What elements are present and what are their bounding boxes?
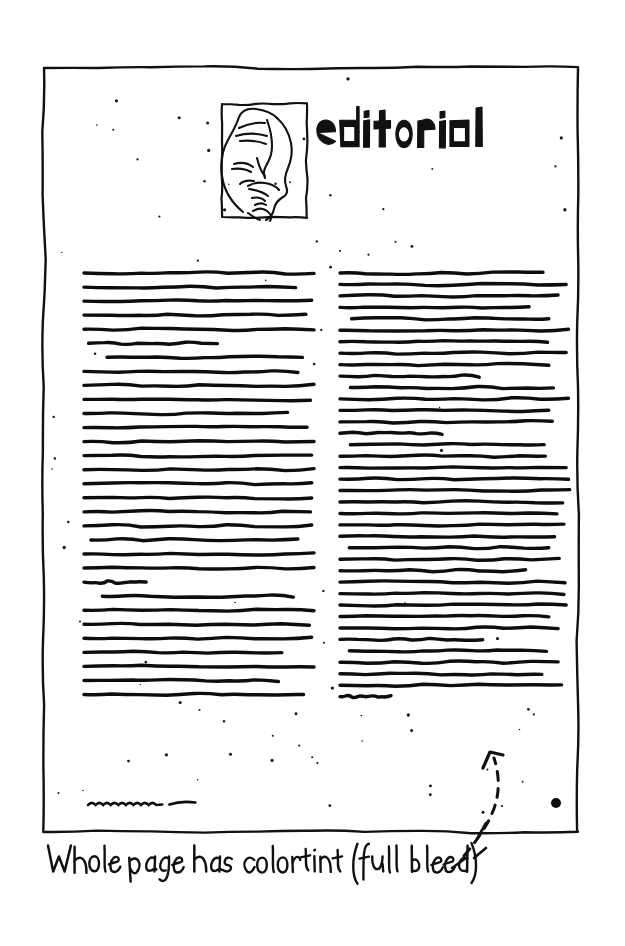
speckle-dot (271, 759, 274, 762)
speckle-dot (229, 753, 232, 756)
caption-stroke (273, 846, 274, 872)
greeked-text-line (340, 490, 570, 492)
speckle-dot (395, 241, 397, 243)
speckle-dot (410, 245, 413, 248)
speckle-dot (223, 208, 226, 211)
speckle-dot (481, 811, 484, 814)
speckle-dot (203, 180, 206, 183)
title-letter-glyph (439, 120, 445, 147)
speckle-dot (274, 182, 277, 185)
speckle-dot (563, 208, 566, 211)
speckle-dot (96, 124, 98, 126)
title-letter-glyph (476, 107, 483, 146)
speckle-dot (329, 266, 332, 269)
speckle-dot (61, 252, 62, 253)
speckle-dot (439, 407, 440, 408)
greeked-text-line (84, 637, 312, 639)
greeked-text-line (340, 363, 549, 365)
greeked-text-line (340, 455, 545, 457)
greeked-text-line (349, 547, 549, 549)
speckle-dot (57, 792, 59, 794)
page-layout-sketch: editorial Whole page has colortint (full… (0, 0, 625, 946)
greeked-text-line (349, 650, 546, 652)
speckle-dot (407, 713, 410, 716)
speckle-dot (197, 779, 199, 781)
speckle-dot (272, 735, 274, 737)
speckle-dot (316, 240, 318, 242)
greeked-text-line (84, 469, 314, 471)
greeked-text-line (84, 511, 311, 513)
greeked-text-line (340, 284, 566, 286)
greeked-text-line (84, 497, 312, 499)
greeked-text-line (340, 410, 549, 412)
title-letter-counter (344, 127, 354, 141)
greeked-text-line (350, 444, 544, 445)
greeked-text-line (84, 693, 304, 695)
title-letter-glyph (440, 111, 445, 118)
speckle-dot (295, 712, 298, 715)
greeked-text-line (340, 593, 564, 595)
speckle-dot (322, 590, 324, 592)
greeked-text-line (340, 352, 566, 354)
greeked-text-line (340, 638, 483, 640)
speckle-dot (311, 756, 313, 758)
speckle-dot (429, 784, 432, 787)
speckle-dot (179, 701, 182, 704)
greeked-text-line (84, 567, 314, 569)
speckle-dot (67, 521, 70, 524)
greeked-text-line (340, 616, 549, 617)
speckle-dot (198, 709, 200, 711)
greeked-text-line (340, 558, 559, 560)
caption-stroke (427, 846, 428, 872)
greeked-text-line (340, 341, 548, 343)
speckle-dot (320, 329, 322, 331)
speckle-dot (429, 793, 432, 796)
speckle-dot (560, 136, 563, 139)
caption-stroke (104, 846, 105, 872)
speckle-dot (54, 457, 56, 459)
speckle-dot (410, 729, 413, 732)
greeked-text-line (84, 553, 314, 555)
greeked-text-line (340, 421, 552, 423)
greeked-text-line (340, 627, 558, 629)
title-letter-glyph (374, 121, 391, 129)
speckle-dot (298, 745, 300, 747)
speckle-dot (234, 602, 236, 604)
greeked-text-line (340, 329, 569, 331)
sketch-canvas (0, 0, 625, 946)
speckle-dot (206, 122, 209, 125)
greeked-text-line (84, 455, 312, 457)
speckle-dot (431, 168, 433, 170)
greeked-text-line (89, 342, 218, 344)
greeked-text-line (340, 375, 479, 377)
greeked-text-line (340, 467, 566, 468)
speckle-dot (136, 158, 138, 160)
speckle-dot (382, 208, 384, 210)
greeked-text-line (340, 513, 557, 514)
speckle-dot (361, 740, 363, 742)
greeked-text-line (84, 651, 282, 653)
greeked-text-line (340, 673, 542, 675)
speckle-dot (265, 280, 267, 282)
title-letter-glyph (364, 111, 369, 118)
speckle-dot (82, 790, 84, 792)
speckle-dot (316, 762, 318, 764)
speckle-dot (331, 686, 334, 689)
speckle-dot (178, 116, 181, 119)
speckle-dot (79, 620, 81, 622)
caption-stroke (389, 846, 390, 872)
title-letter-counter (399, 127, 409, 141)
speckle-dot (197, 260, 199, 262)
speckle-dot (527, 708, 530, 711)
speckle-dot (522, 781, 524, 783)
speckle-dot (533, 713, 535, 715)
caption-stroke (292, 857, 293, 872)
speckle-dot (165, 753, 168, 756)
greeked-text-line (84, 623, 309, 625)
greeked-text-line (84, 300, 312, 302)
greeked-text-line (84, 483, 312, 485)
title-letter-glyph (364, 120, 370, 147)
speckle-dot (323, 642, 325, 644)
speckle-dot (313, 363, 316, 366)
greeked-text-line (84, 581, 146, 583)
